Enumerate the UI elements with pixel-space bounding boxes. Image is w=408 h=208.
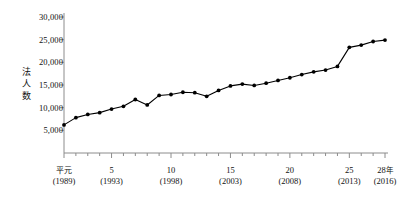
- x-axis-era-label: 20: [279, 165, 302, 176]
- x-axis-tick-label-group: 20(2008): [279, 165, 302, 187]
- x-axis-year-label: (2003): [219, 176, 242, 187]
- x-axis-tick-label-group: 28年(2016): [374, 165, 397, 187]
- x-axis-tick-label-group: 10(1998): [160, 165, 183, 187]
- x-axis-era-label: 平元: [53, 165, 76, 176]
- x-axis-tick-label-group: 25(2013): [338, 165, 361, 187]
- x-axis-year-label: (2008): [279, 176, 302, 187]
- x-axis-era-label: 28年: [374, 165, 397, 176]
- x-axis-year-label: (1989): [53, 176, 76, 187]
- x-axis-tick-label-group: 平元(1989): [53, 165, 76, 187]
- x-axis-era-label: 15: [219, 165, 242, 176]
- x-axis-era-label: 25: [338, 165, 361, 176]
- x-axis-era-label: 10: [160, 165, 183, 176]
- x-axis-tick-label-group: 5(1993): [100, 165, 123, 187]
- x-axis-year-label: (1993): [100, 176, 123, 187]
- x-axis-year-label: (2016): [374, 176, 397, 187]
- x-axis-year-label: (1998): [160, 176, 183, 187]
- x-axis-era-unit: 年: [386, 166, 393, 175]
- x-axis-era-label: 5: [100, 165, 123, 176]
- x-axis-tick-label-group: 15(2003): [219, 165, 242, 187]
- x-axis-tick-labels: 平元(1989)5(1993)10(1998)15(2003)20(2008)2…: [0, 0, 408, 208]
- x-axis-year-label: (2013): [338, 176, 361, 187]
- line-chart: 法 人 数 5,00010,00015,00020,00025,00030,00…: [0, 0, 408, 208]
